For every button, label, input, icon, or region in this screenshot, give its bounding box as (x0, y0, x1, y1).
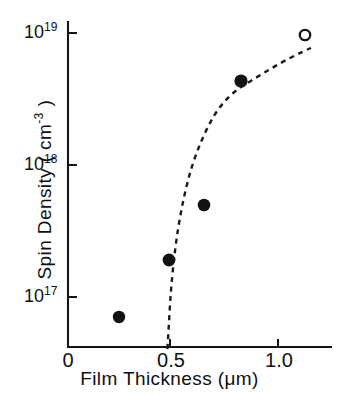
y-tick-1e19-exponent: 19 (44, 20, 57, 34)
data-point-filled (163, 254, 176, 267)
data-point-open (300, 30, 310, 40)
data-point-filled (234, 74, 247, 87)
y-axis-title-close: ) (34, 100, 55, 112)
x-axis-title: Film Thickness (μm) (0, 368, 339, 390)
data-point-filled (198, 199, 211, 212)
y-tick-1e19-base: 10 (24, 22, 44, 42)
guide-curve-dashed (167, 48, 311, 349)
y-axis-title-exponent: -3 (32, 112, 46, 123)
y-axis-title-main: Spin Density ( cm (34, 124, 55, 280)
data-point-filled (113, 311, 125, 323)
x-axis-title-unit: μm (225, 368, 253, 389)
spin-density-vs-film-thickness-chart: 1019 1018 1017 0 0.5 1.0 Film Thickness … (0, 0, 339, 399)
x-axis-title-close: ) (252, 368, 259, 389)
y-tick-label-1e19: 1019 (24, 20, 57, 43)
x-axis-title-main: Film Thickness ( (80, 368, 224, 389)
y-axis-title: Spin Density ( cm-3 ) (32, 60, 55, 320)
